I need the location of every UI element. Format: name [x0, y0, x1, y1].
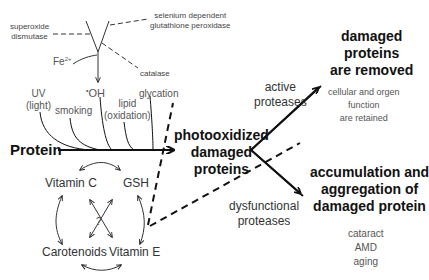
label-fe: Fe2+	[53, 56, 72, 67]
v-right-line	[98, 21, 109, 52]
catalase-dash	[102, 43, 138, 68]
label-photooxidized-proteins: photooxidized damaged proteins	[174, 127, 269, 178]
gpx-dash	[110, 19, 148, 25]
outcome-removed-title: damaged proteins are removed	[330, 28, 413, 79]
label-superoxide-dismutase: superoxide dismutase	[10, 23, 49, 41]
outcome-accumulation-detail: cataract AMD aging	[348, 227, 384, 269]
label-protein: Protein	[10, 142, 62, 157]
ros-pathway	[73, 21, 109, 82]
label-gsh: GSH	[123, 177, 149, 189]
label-carotenoids: Carotenoids	[42, 246, 107, 258]
label-lipid: lipid (oxidation)	[104, 99, 151, 121]
label-active-proteases: active proteases	[254, 80, 307, 110]
outcome-removed-detail: cellular and orgen function are retained	[328, 86, 400, 125]
outcome-accumulation-title: accumulation and aggregation of damaged …	[310, 164, 429, 215]
v-left-line	[86, 21, 98, 52]
label-glycation: glycation	[139, 89, 178, 99]
label-dysfunctional-proteases: dysfunctional proteases	[229, 199, 299, 229]
fe-curve	[73, 55, 97, 64]
label-vitamin-e: Vitamin E	[109, 246, 160, 258]
label-unknown: ?	[96, 217, 102, 227]
label-catalase: catalase	[140, 70, 170, 78]
label-vitamin-c: Vitamin C	[45, 177, 97, 189]
label-hydroxyl: •OH	[86, 87, 105, 99]
label-selenium-gpx: selenium dependent glutathione peroxidas…	[150, 12, 231, 30]
label-uv: UV (light)	[26, 89, 51, 111]
label-smoking: smoking	[55, 106, 92, 116]
